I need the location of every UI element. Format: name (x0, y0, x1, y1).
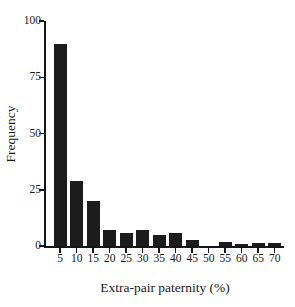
x-tick-label: 5 (57, 252, 63, 264)
x-tick-label: 10 (71, 252, 83, 264)
x-tick-label: 30 (137, 252, 149, 264)
x-tick-label: 50 (203, 252, 215, 264)
y-tick-label: 25 (15, 184, 41, 196)
x-tick-label: 20 (104, 252, 116, 264)
x-tick-label: 35 (153, 252, 165, 264)
x-tick-label: 55 (219, 252, 231, 264)
y-tick-label: 100 (15, 15, 41, 27)
y-tick-label: 75 (15, 72, 41, 84)
y-axis-tick-labels: 0255075100 (14, 0, 41, 307)
x-tick-label: 60 (236, 252, 248, 264)
x-tick-label: 25 (120, 252, 132, 264)
y-tick-label: 50 (15, 128, 41, 140)
x-axis-tick-labels: 510152025303540455055606570 (44, 0, 284, 307)
y-tick-label: 0 (15, 240, 41, 252)
x-tick-label: 45 (186, 252, 198, 264)
x-axis-label: Extra-pair paternity (%) (40, 280, 290, 296)
x-tick-label: 15 (87, 252, 99, 264)
x-tick-label: 40 (170, 252, 182, 264)
x-tick-label: 70 (269, 252, 281, 264)
x-tick-label: 65 (252, 252, 264, 264)
histogram-figure: Frequency 0255075100 5101520253035404550… (0, 0, 295, 307)
